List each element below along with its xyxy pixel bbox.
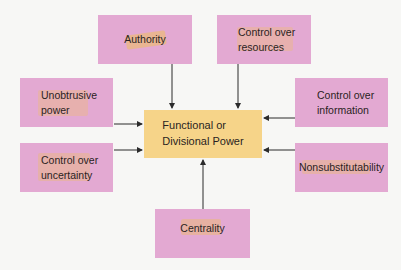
source-box-nonsubstitutability: Nonsubstitutability — [295, 143, 388, 192]
source-label: Unobtrusive power — [41, 88, 97, 116]
source-box-unobtrusive-power: Unobtrusive power — [20, 78, 113, 127]
source-box-control-over-information: Control over information — [295, 78, 388, 127]
source-label: Authority — [124, 32, 165, 46]
source-box-control-over-resources: Control over resources — [217, 15, 311, 64]
source-label: Control over uncertainty — [41, 153, 98, 181]
center-box-functional-divisional-power: Functional or Divisional Power — [144, 110, 262, 158]
source-label: Control over resources — [238, 25, 295, 53]
source-box-control-over-uncertainty: Control over uncertainty — [20, 143, 113, 192]
source-label: Centrality — [180, 221, 224, 235]
source-box-authority: Authority — [98, 15, 192, 64]
source-box-centrality: Centrality — [155, 209, 250, 258]
center-label: Functional or Divisional Power — [162, 118, 243, 150]
source-label: Control over information — [317, 88, 374, 116]
source-label: Nonsubstitutability — [299, 160, 384, 174]
